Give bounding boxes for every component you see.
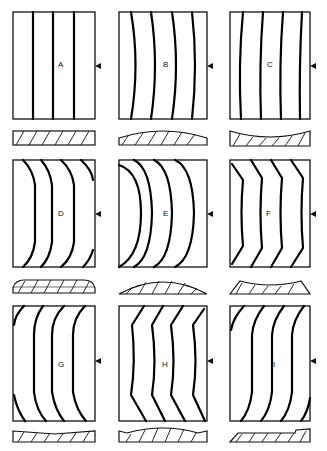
panel-label-a: A [58, 60, 64, 69]
panel-label-b: B [163, 60, 168, 69]
section-f [230, 281, 310, 294]
section-g [13, 431, 95, 442]
panel-label-h: H [162, 360, 168, 369]
panel-e: E [119, 160, 213, 294]
section-d [13, 280, 95, 293]
panel-a: A [13, 12, 101, 145]
section-e [119, 281, 207, 294]
panel-c: C [230, 12, 316, 146]
panel-label-d: D [58, 209, 64, 218]
pointer-arrow-icon [310, 63, 316, 69]
section-h [119, 428, 207, 442]
pointer-arrow-icon [95, 211, 101, 217]
pointer-arrow-icon [310, 358, 316, 364]
pointer-arrow-icon [207, 211, 213, 217]
pointer-arrow-icon [95, 63, 101, 69]
section-b [119, 131, 207, 145]
section-i [230, 429, 310, 442]
panel-label-g: G [58, 360, 64, 369]
section-a [13, 131, 95, 145]
panel-label-c: C [267, 60, 273, 69]
panel-g: G [13, 306, 101, 442]
panel-d: D [13, 160, 101, 293]
panel-b: B [119, 12, 213, 145]
panel-label-f: F [266, 209, 271, 218]
wood-grain-diagram: A B [0, 0, 327, 451]
panel-f: F [230, 160, 316, 294]
panel-i: I [230, 306, 316, 442]
panel-d-frame [13, 160, 95, 267]
panel-label-i: I [273, 360, 275, 369]
section-c [230, 131, 310, 146]
pointer-arrow-icon [95, 358, 101, 364]
panel-label-e: E [163, 209, 168, 218]
panel-h: H [119, 306, 213, 442]
pointer-arrow-icon [310, 211, 316, 217]
pointer-arrow-icon [207, 63, 213, 69]
pointer-arrow-icon [207, 358, 213, 364]
